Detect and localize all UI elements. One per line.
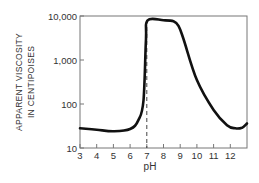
y-tick-label: 10,000 <box>48 11 77 22</box>
y-tick-label: 1,000 <box>53 55 77 66</box>
x-tick-label: 12 <box>225 150 236 161</box>
x-axis-title: pH <box>143 161 156 172</box>
y-axis-title: APPARENT VISCOSITYIN CENTIPOISES <box>14 33 36 131</box>
x-tick-label: 10 <box>192 150 203 161</box>
x-tick-label: 7 <box>144 150 149 161</box>
y-tick-label: 100 <box>61 99 77 110</box>
x-tick-label: 9 <box>178 150 183 161</box>
x-tick-label: 4 <box>94 150 99 161</box>
y-axis-ticks: 101001,00010,000 <box>48 11 84 154</box>
viscosity-vs-ph-chart: APPARENT VISCOSITYIN CENTIPOISES 101001,… <box>0 0 259 183</box>
x-tick-label: 11 <box>209 150 219 161</box>
x-tick-label: 6 <box>127 150 132 161</box>
viscosity-curve <box>80 19 247 132</box>
y-tick-label: 10 <box>66 143 77 154</box>
x-tick-label: 3 <box>77 150 82 161</box>
y-axis-title-line: IN CENTIPOISES <box>26 46 36 118</box>
x-axis-ticks: 3456789101112 <box>77 144 235 161</box>
plot-frame <box>80 16 247 148</box>
x-tick-label: 8 <box>161 150 166 161</box>
y-axis-title-line: APPARENT VISCOSITY <box>14 33 24 131</box>
x-tick-label: 5 <box>111 150 116 161</box>
